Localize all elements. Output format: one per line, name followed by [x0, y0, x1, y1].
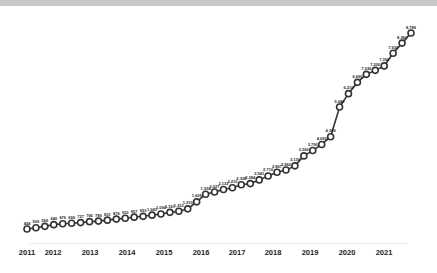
data-point	[328, 134, 334, 140]
data-label: 4,050	[317, 136, 328, 141]
data-point	[87, 219, 93, 225]
data-label: 454	[24, 221, 31, 226]
data-label: 7,200	[370, 62, 381, 67]
x-axis-line	[28, 243, 408, 244]
data-point	[149, 212, 155, 218]
data-point	[60, 221, 66, 227]
x-tick-label: 2018	[265, 248, 282, 257]
data-point	[95, 218, 101, 224]
data-label: 1,310	[183, 200, 194, 205]
data-point	[247, 181, 253, 187]
data-point	[345, 91, 351, 97]
data-point	[122, 215, 128, 221]
data-point	[319, 141, 325, 147]
data-point	[212, 189, 218, 195]
data-point	[51, 222, 57, 228]
data-label: 910	[122, 210, 129, 215]
data-label: 3,139	[290, 157, 301, 162]
data-label: 640	[50, 216, 57, 221]
line-chart: 4545095666406766997277667898318769109579…	[0, 0, 437, 273]
data-point	[310, 148, 316, 154]
data-point	[265, 173, 271, 179]
data-point	[140, 213, 146, 219]
data-point	[337, 104, 343, 110]
data-point	[238, 182, 244, 188]
data-point	[113, 216, 119, 222]
data-label: 3,790	[308, 142, 319, 147]
data-point	[194, 199, 200, 205]
data-point	[283, 167, 289, 173]
x-tick-label: 2015	[156, 248, 173, 257]
data-point	[229, 185, 235, 191]
data-label: 566	[42, 218, 49, 223]
data-label: 7,930	[388, 45, 399, 50]
data-point	[301, 153, 307, 159]
data-point	[390, 50, 396, 56]
data-label: 4,380	[326, 128, 337, 133]
data-point	[78, 220, 84, 226]
data-label: 509	[33, 219, 40, 224]
data-label: 727	[77, 214, 84, 219]
data-point	[274, 169, 280, 175]
x-tick-label: 2020	[339, 248, 356, 257]
x-tick-label: 2021	[376, 248, 393, 257]
data-point	[24, 226, 30, 232]
data-label: 876	[113, 211, 120, 216]
data-point	[104, 217, 110, 223]
data-label: 766	[86, 213, 93, 218]
data-label: 8,360	[397, 35, 408, 40]
data-point	[354, 79, 360, 85]
data-point	[167, 209, 173, 215]
data-label: 6,210	[343, 85, 354, 90]
data-point	[69, 220, 75, 226]
data-point	[131, 214, 137, 220]
x-tick-label: 2013	[82, 248, 99, 257]
x-tick-label: 2017	[229, 248, 246, 257]
data-point	[408, 30, 414, 36]
x-tick-label: 2011	[19, 248, 35, 257]
data-point	[292, 163, 298, 169]
data-label: 789	[95, 213, 102, 218]
data-point	[42, 223, 48, 229]
data-label: 7,390	[379, 57, 390, 62]
data-label: 831	[104, 212, 111, 217]
data-label: 3,563	[299, 147, 310, 152]
data-label: 1,609	[192, 193, 203, 198]
x-tick-label: 2016	[193, 248, 210, 257]
data-label: 8,789	[406, 25, 417, 30]
data-point	[256, 177, 262, 183]
data-point	[399, 40, 405, 46]
data-point	[220, 187, 226, 193]
data-point	[158, 211, 164, 217]
data-point	[363, 71, 369, 77]
data-point	[185, 206, 191, 212]
data-point	[176, 208, 182, 214]
data-point	[203, 191, 209, 197]
data-label: 5,640	[335, 99, 346, 104]
data-label: 676	[59, 215, 66, 220]
data-point	[381, 63, 387, 69]
data-point	[33, 225, 39, 231]
x-tick-label: 2012	[45, 248, 62, 257]
series-line	[27, 33, 411, 229]
x-tick-label: 2014	[119, 248, 136, 257]
x-tick-label: 2019	[302, 248, 319, 257]
data-label: 957	[131, 209, 138, 214]
data-label: 6,690	[352, 74, 363, 79]
data-point	[372, 67, 378, 73]
data-label: 699	[68, 215, 75, 220]
